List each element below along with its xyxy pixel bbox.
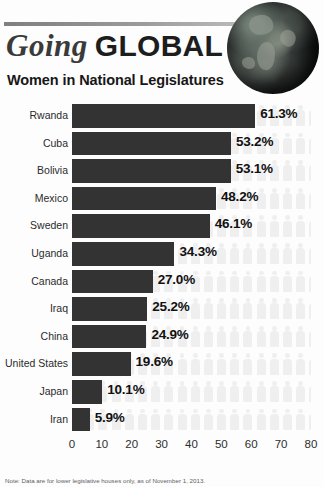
bar bbox=[72, 104, 255, 128]
bar bbox=[72, 242, 174, 266]
x-axis: 01020304050607080 bbox=[72, 438, 311, 458]
category-label: Japan bbox=[0, 385, 68, 397]
value-label: 10.1% bbox=[107, 382, 144, 397]
x-tick-label: 0 bbox=[69, 438, 75, 450]
bar bbox=[72, 214, 210, 238]
category-label: Sweden bbox=[0, 219, 68, 231]
value-label: 53.1% bbox=[236, 161, 273, 176]
header: GoingGLOBAL Women in National Legislatur… bbox=[0, 0, 324, 100]
value-label: 48.2% bbox=[221, 189, 258, 204]
bar bbox=[72, 297, 147, 321]
value-label: 46.1% bbox=[215, 216, 252, 231]
value-label: 19.6% bbox=[136, 354, 173, 369]
x-tick-label: 10 bbox=[95, 438, 108, 450]
title-global: GLOBAL bbox=[95, 29, 223, 62]
value-label: 61.3% bbox=[260, 106, 297, 121]
category-label: United States bbox=[0, 357, 68, 369]
category-label: Bolivia bbox=[0, 164, 68, 176]
value-label: 5.9% bbox=[95, 410, 125, 425]
bar-row bbox=[72, 212, 311, 240]
header-rule bbox=[4, 22, 250, 26]
bar-row bbox=[72, 350, 311, 378]
bar bbox=[72, 270, 153, 294]
value-label: 34.3% bbox=[179, 244, 216, 259]
bar bbox=[72, 352, 131, 376]
category-label: China bbox=[0, 330, 68, 342]
x-tick-label: 30 bbox=[155, 438, 168, 450]
x-tick-label: 60 bbox=[245, 438, 258, 450]
bar bbox=[72, 380, 102, 404]
category-label: Iran bbox=[0, 413, 68, 425]
bar-row bbox=[72, 323, 311, 351]
category-label: Cuba bbox=[0, 137, 68, 149]
category-label: Iraq bbox=[0, 302, 68, 314]
category-label: Uganda bbox=[0, 247, 68, 259]
category-label: Canada bbox=[0, 275, 68, 287]
title-going: Going bbox=[6, 28, 88, 63]
x-tick-label: 70 bbox=[275, 438, 288, 450]
bar-row bbox=[72, 157, 311, 185]
bar bbox=[72, 187, 216, 211]
x-tick-label: 20 bbox=[125, 438, 138, 450]
globe-icon bbox=[227, 2, 319, 94]
category-label: Mexico bbox=[0, 192, 68, 204]
value-label: 24.9% bbox=[151, 327, 188, 342]
footnote: Note: Data are for lower legislative hou… bbox=[5, 476, 324, 487]
x-tick-label: 50 bbox=[215, 438, 228, 450]
bar bbox=[72, 159, 231, 183]
page-title: GoingGLOBAL bbox=[6, 28, 223, 64]
bar-row bbox=[72, 185, 311, 213]
x-tick-label: 40 bbox=[185, 438, 198, 450]
bar-row bbox=[72, 130, 311, 158]
bar bbox=[72, 132, 231, 156]
category-label: Rwanda bbox=[0, 109, 68, 121]
bar bbox=[72, 325, 146, 349]
infographic-page: GoingGLOBAL Women in National Legislatur… bbox=[0, 0, 324, 487]
value-label: 53.2% bbox=[236, 134, 273, 149]
subtitle: Women in National Legislatures bbox=[7, 72, 224, 88]
value-label: 25.2% bbox=[152, 299, 189, 314]
bar-row bbox=[72, 295, 311, 323]
value-label: 27.0% bbox=[158, 272, 195, 287]
bar bbox=[72, 408, 90, 432]
x-tick-label: 80 bbox=[305, 438, 318, 450]
